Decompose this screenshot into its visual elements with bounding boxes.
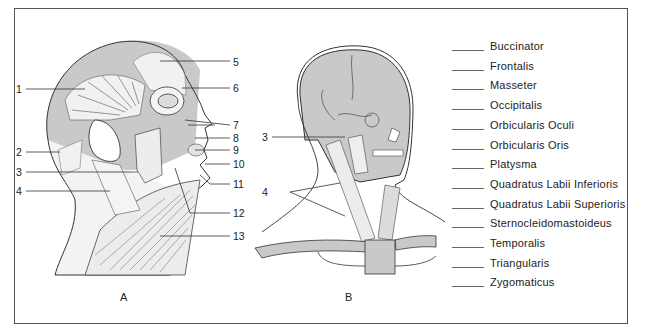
callout-a-6: 6 <box>233 83 239 94</box>
legend-label: Occipitalis <box>490 99 542 111</box>
legend-label: Orbicularis Oris <box>490 139 569 151</box>
answer-blank <box>452 247 484 248</box>
answer-blank <box>452 149 484 150</box>
legend-label: Temporalis <box>490 237 545 249</box>
callout-a-12: 12 <box>233 208 245 219</box>
legend-label: Triangularis <box>490 257 549 269</box>
answer-blank <box>452 286 484 287</box>
legend-label: Quadratus Labii Inferioris <box>490 178 618 190</box>
legend-label: Zygomaticus <box>490 276 555 288</box>
callout-a-1: 1 <box>16 84 22 95</box>
callout-a-11: 11 <box>233 179 244 190</box>
legend-label: Platysma <box>490 158 537 170</box>
panel-b-label: B <box>345 291 352 303</box>
callout-b-3: 3 <box>262 132 268 143</box>
answer-blank <box>452 227 484 228</box>
callout-b-4: 4 <box>262 187 268 198</box>
answer-blank <box>452 208 484 209</box>
callout-a-3: 3 <box>16 167 22 178</box>
answer-blank <box>452 109 484 110</box>
callout-a-4: 4 <box>16 186 22 197</box>
legend-label: Frontalis <box>490 60 534 72</box>
panel-a-label: A <box>120 291 127 303</box>
callout-a-8: 8 <box>233 133 239 144</box>
panel-b-skull-drawing <box>255 46 445 274</box>
answer-blank <box>452 89 484 90</box>
answer-blank <box>452 168 484 169</box>
panel-a-head-drawing <box>47 41 212 275</box>
answer-blank <box>452 50 484 51</box>
callout-a-10: 10 <box>233 159 245 170</box>
legend-label: Orbicularis Oculi <box>490 119 574 131</box>
legend-label: Quadratus Labii Superioris <box>490 198 625 210</box>
answer-blank <box>452 70 484 71</box>
callout-a-5: 5 <box>233 57 239 68</box>
answer-blank <box>452 188 484 189</box>
callout-a-7: 7 <box>233 120 239 131</box>
callout-a-2: 2 <box>16 147 22 158</box>
callout-a-9: 9 <box>233 145 239 156</box>
answer-blank <box>452 129 484 130</box>
legend-label: Sternocleidomastoideus <box>490 217 612 229</box>
legend-label: Masseter <box>490 79 537 91</box>
legend-label: Buccinator <box>490 40 544 52</box>
answer-blank <box>452 267 484 268</box>
callout-a-13: 13 <box>233 231 245 242</box>
